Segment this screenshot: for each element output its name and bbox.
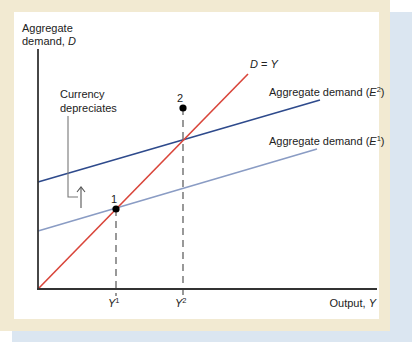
annotation-line1: Currency bbox=[60, 88, 105, 100]
annotation-leader-line bbox=[68, 116, 78, 197]
y-axis-label-line1: Aggregate bbox=[22, 22, 73, 34]
tick-label-y2: Y2 bbox=[175, 296, 187, 309]
aggregate-demand-e1-label: Aggregate demand (E1) bbox=[269, 134, 384, 147]
aggregate-demand-e1-line bbox=[38, 149, 317, 231]
point-1-label: 1 bbox=[111, 193, 117, 205]
equilibrium-point-2 bbox=[179, 104, 186, 111]
y-axis-label-line2: demand, D bbox=[22, 35, 76, 47]
point-2-label: 2 bbox=[177, 92, 183, 104]
aggregate-demand-diagram: Aggregate demand, D Currency depreciates… bbox=[0, 0, 412, 342]
x-axis-label: Output, Y bbox=[330, 297, 377, 309]
d-equals-y-label: D = Y bbox=[250, 58, 279, 70]
equilibrium-point-1 bbox=[112, 205, 119, 212]
tick-label-y1: Y1 bbox=[108, 296, 120, 309]
aggregate-demand-e2-label: Aggregate demand (E2) bbox=[269, 85, 384, 98]
annotation-line2: depreciates bbox=[60, 102, 117, 114]
